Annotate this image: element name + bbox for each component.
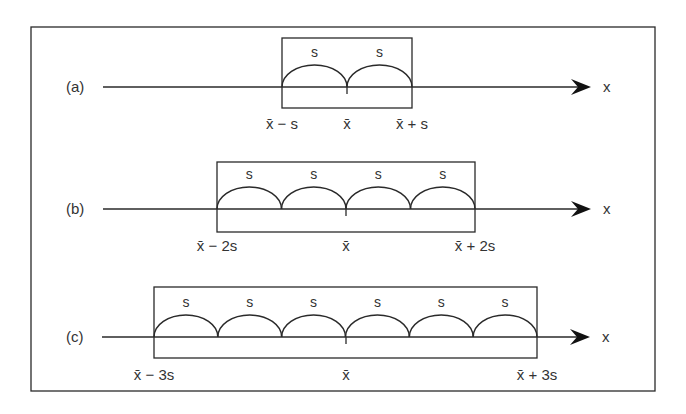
tick-label: x̄	[342, 366, 350, 383]
segment-label-s: s	[438, 294, 445, 310]
segment-label-s: s	[375, 166, 382, 182]
x-axis-label: x	[602, 328, 610, 345]
sd-arc	[473, 315, 537, 337]
x-axis-label: x	[603, 78, 611, 95]
tick-label: x̄ − 2s	[197, 237, 237, 254]
tick-label: x̄ + 3s	[517, 366, 557, 383]
sd-arc	[154, 315, 218, 337]
tick-label: x̄ − 3s	[134, 366, 174, 383]
panels-group: (a)xssx̄ − sx̄x̄ + s(b)xssssx̄ − 2sx̄x̄ …	[66, 38, 611, 383]
segment-label-s: s	[439, 166, 446, 182]
panel-c: (c)xssssssx̄ − 3sx̄x̄ + 3s	[66, 287, 610, 383]
tick-label: x̄ + s	[396, 115, 428, 132]
tick-label: x̄	[343, 115, 351, 132]
sd-arc	[346, 187, 411, 209]
segment-label-s: s	[374, 294, 381, 310]
sd-arc	[346, 315, 410, 337]
tick-label: x̄ + 2s	[455, 237, 495, 254]
x-axis-label: x	[603, 200, 611, 217]
sd-arc	[282, 187, 347, 209]
sd-arc	[411, 187, 476, 209]
sd-arc	[282, 65, 347, 87]
panel-b: (b)xssssx̄ − 2sx̄x̄ + 2s	[66, 162, 611, 254]
segment-label-s: s	[182, 294, 189, 310]
segment-label-s: s	[310, 166, 317, 182]
figure-canvas: (a)xssx̄ − sx̄x̄ + s(b)xssssx̄ − 2sx̄x̄ …	[0, 0, 686, 414]
segment-label-s: s	[376, 44, 383, 60]
panel-label: (a)	[66, 78, 84, 95]
segment-label-s: s	[246, 166, 253, 182]
tick-label: x̄ − s	[266, 115, 298, 132]
interval-box	[217, 162, 475, 232]
sd-arc	[347, 65, 412, 87]
sd-arc	[282, 315, 346, 337]
sd-arc	[409, 315, 473, 337]
interval-box	[154, 287, 537, 358]
panel-label: (c)	[66, 328, 84, 345]
standard-deviation-intervals-diagram: (a)xssx̄ − sx̄x̄ + s(b)xssssx̄ − 2sx̄x̄ …	[0, 0, 686, 414]
panel-a: (a)xssx̄ − sx̄x̄ + s	[66, 38, 611, 132]
interval-box	[282, 38, 412, 108]
sd-arc	[218, 315, 282, 337]
segment-label-s: s	[246, 294, 253, 310]
segment-label-s: s	[311, 44, 318, 60]
panel-label: (b)	[66, 200, 84, 217]
sd-arc	[217, 187, 282, 209]
segment-label-s: s	[310, 294, 317, 310]
tick-label: x̄	[342, 237, 350, 254]
segment-label-s: s	[502, 294, 509, 310]
